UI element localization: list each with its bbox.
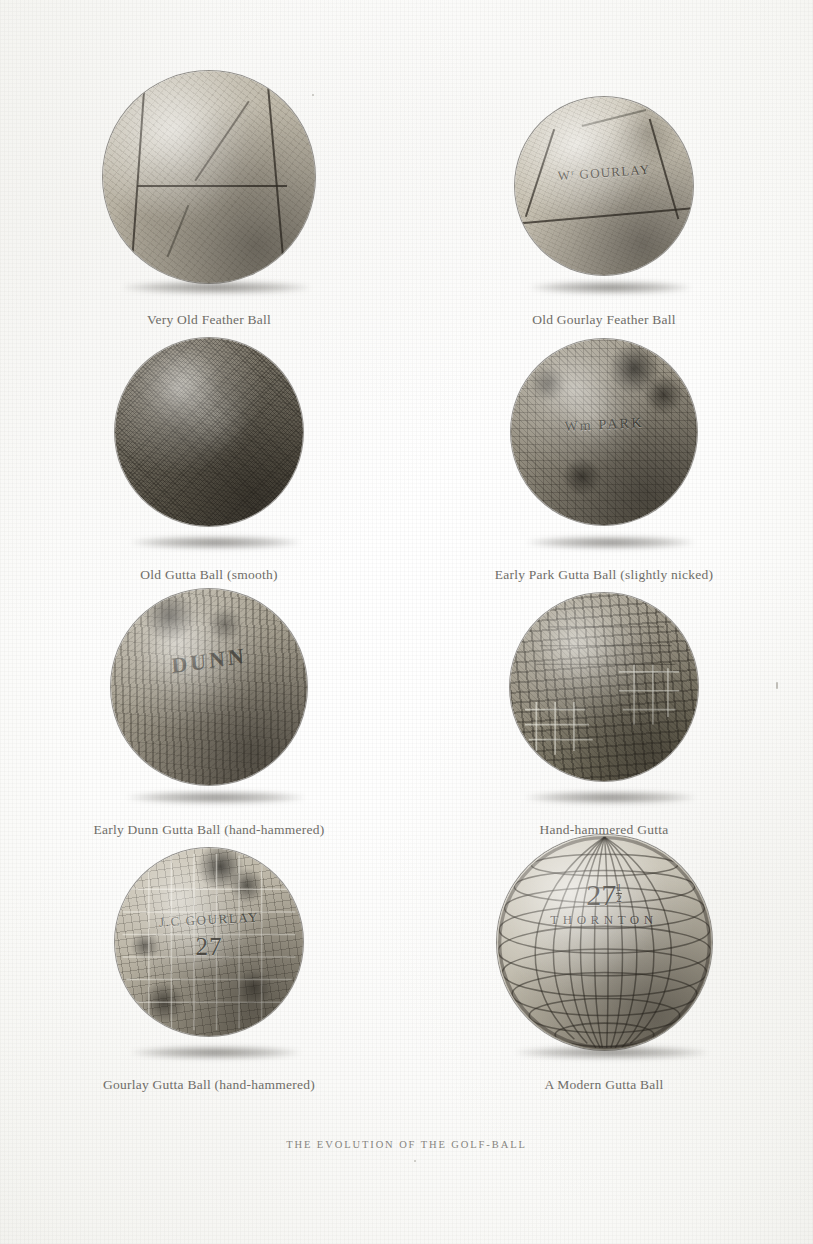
ball-stage: Wm PARK bbox=[401, 307, 807, 557]
ball-shadow bbox=[528, 536, 694, 549]
ball-illustration-early-park-gutta-ball: Wm PARK bbox=[511, 339, 697, 525]
ball-shadow bbox=[132, 1046, 300, 1059]
ball-illustration-old-gourlay-feather-ball: Wr GOURLAY bbox=[515, 97, 693, 275]
ball-surface-texture bbox=[111, 589, 307, 785]
ball-stage: 2712 THORNTON bbox=[401, 817, 807, 1067]
golf-ball-evolution-plate: Very Old Feather Ball Wr GOURLAY Old Gou… bbox=[0, 0, 813, 1244]
figure-caption: Gourlay Gutta Ball (hand-hammered) bbox=[6, 1077, 412, 1093]
ball-surface-texture bbox=[497, 835, 712, 1050]
ball-surface-texture bbox=[115, 338, 303, 526]
ball-shadow bbox=[527, 791, 695, 804]
figure-very-old-feather-ball: Very Old Feather Ball bbox=[6, 52, 412, 328]
ball-surface-texture bbox=[115, 848, 303, 1036]
ball-stage: J.C GOURLAY 27 bbox=[6, 817, 412, 1067]
figure-old-gourlay-feather-ball: Wr GOURLAY Old Gourlay Feather Ball bbox=[401, 52, 807, 328]
ball-surface-texture bbox=[511, 339, 697, 525]
ball-surface-texture bbox=[510, 593, 698, 781]
ball-stage: Wr GOURLAY bbox=[401, 52, 807, 302]
figure-grid: Very Old Feather Ball Wr GOURLAY Old Gou… bbox=[0, 0, 813, 1244]
ball-shadow bbox=[530, 281, 690, 294]
ball-illustration-hand-hammered-gutta bbox=[510, 593, 698, 781]
figure-early-dunn-gutta-ball: DUNN Early Dunn Gutta Ball (hand-hammere… bbox=[6, 562, 412, 838]
figure-a-modern-gutta-ball: 2712 THORNTON A Modern Gutta Ball bbox=[401, 817, 807, 1093]
ball-illustration-gourlay-gutta-ball: J.C GOURLAY 27 bbox=[115, 848, 303, 1036]
plate-title: THE EVOLUTION OF THE GOLF-BALL bbox=[0, 1139, 813, 1150]
ball-surface-texture bbox=[515, 97, 693, 275]
figure-old-gutta-ball-smooth: Old Gutta Ball (smooth) bbox=[6, 307, 412, 583]
ball-stage bbox=[401, 562, 807, 812]
ball-illustration-a-modern-gutta-ball: 2712 THORNTON bbox=[497, 835, 712, 1050]
ball-illustration-very-old-feather-ball bbox=[103, 71, 315, 283]
ball-surface-texture bbox=[103, 71, 315, 283]
ball-shadow bbox=[128, 791, 304, 804]
ball-illustration-old-gutta-ball-smooth bbox=[115, 338, 303, 526]
ball-stage: DUNN bbox=[6, 562, 412, 812]
figure-caption: A Modern Gutta Ball bbox=[401, 1077, 807, 1093]
ball-stage bbox=[6, 52, 412, 302]
ball-shadow bbox=[123, 281, 311, 294]
ball-illustration-early-dunn-gutta-ball: DUNN bbox=[111, 589, 307, 785]
figure-early-park-gutta-ball: Wm PARK Early Park Gutta Ball (slightly … bbox=[401, 307, 807, 583]
figure-hand-hammered-gutta: Hand-hammered Gutta bbox=[401, 562, 807, 838]
ball-stage bbox=[6, 307, 412, 557]
ball-shadow bbox=[132, 536, 300, 549]
figure-gourlay-gutta-ball: J.C GOURLAY 27 Gourlay Gutta Ball (hand-… bbox=[6, 817, 412, 1093]
